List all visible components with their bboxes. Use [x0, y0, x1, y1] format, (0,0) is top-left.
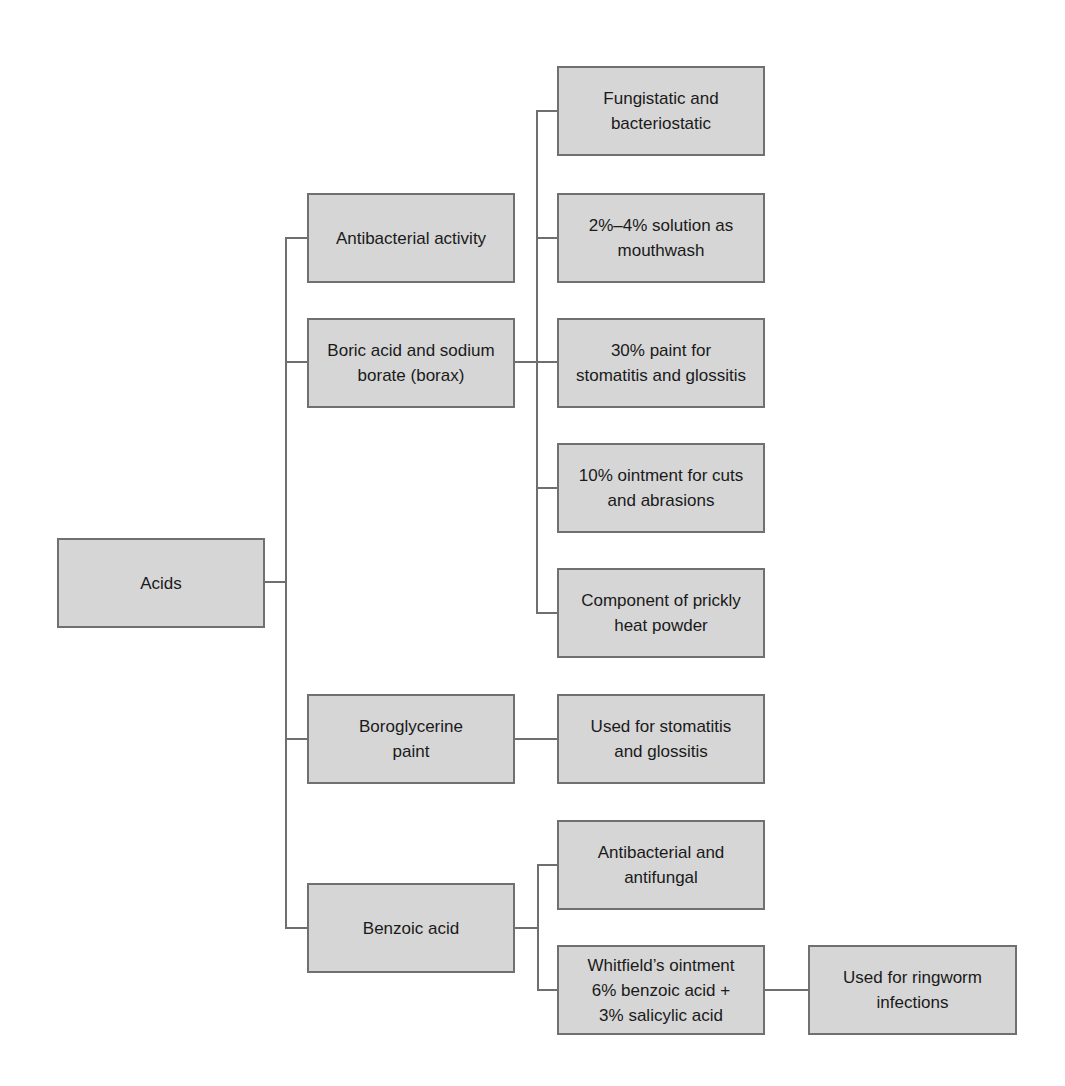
connector-to-antifungal — [537, 864, 557, 866]
connector-to-mouthwash — [536, 237, 557, 239]
connector-whitfield-to-ringworm — [765, 989, 808, 991]
acids-tree-diagram: Acids Antibacterial activity Boric acid … — [0, 0, 1065, 1086]
connector-to-ointment — [536, 487, 557, 489]
node-fungistatic-bacteriostatic: Fungistatic and bacteriostatic — [557, 66, 765, 156]
connector-benzoic-out — [515, 927, 539, 929]
connector-boric-out — [515, 361, 537, 363]
node-whitfields-ointment: Whitfield’s ointment 6% benzoic acid + 3… — [557, 945, 765, 1035]
node-benzoic-acid: Benzoic acid — [307, 883, 515, 973]
node-used-for-stomatitis: Used for stomatitis and glossitis — [557, 694, 765, 784]
connector-to-whitfield — [537, 989, 557, 991]
connector-trunk-to-boric — [285, 361, 307, 363]
node-antibacterial-activity: Antibacterial activity — [307, 193, 515, 283]
node-boroglycerine-paint: Boroglycerine paint — [307, 694, 515, 784]
node-mouthwash-solution: 2%–4% solution as mouthwash — [557, 193, 765, 283]
node-used-for-ringworm: Used for ringworm infections — [808, 945, 1017, 1035]
node-ointment-cuts: 10% ointment for cuts and abrasions — [557, 443, 765, 533]
node-prickly-heat-powder: Component of prickly heat powder — [557, 568, 765, 658]
connector-to-prickly-heat — [536, 612, 557, 614]
connector-trunk-to-benzoic — [285, 927, 307, 929]
node-boric-acid: Boric acid and sodium borate (borax) — [307, 318, 515, 408]
connector-to-fungistatic — [536, 110, 557, 112]
connector-root-to-trunk — [265, 581, 287, 583]
connector-trunk — [285, 237, 287, 929]
connector-benzoic-vertical — [537, 864, 539, 991]
connector-boroglycerine-to-child — [515, 738, 557, 740]
node-antibacterial-antifungal: Antibacterial and antifungal — [557, 820, 765, 910]
connector-trunk-to-boroglycerine — [285, 738, 307, 740]
connector-to-paint — [536, 361, 557, 363]
node-stomatitis-paint: 30% paint for stomatitis and glossitis — [557, 318, 765, 408]
node-acids: Acids — [57, 538, 265, 628]
connector-trunk-to-antibacterial — [285, 237, 307, 239]
